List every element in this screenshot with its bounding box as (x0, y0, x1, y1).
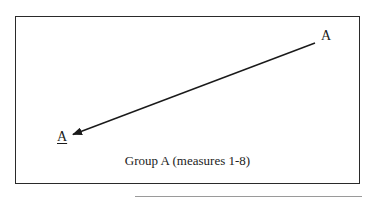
arrow-icon (0, 0, 374, 199)
diagram-caption: Group A (measures 1-8) (15, 153, 360, 169)
start-label: A (321, 29, 331, 43)
page-rule-divider (135, 196, 362, 197)
end-label-underlined: A (57, 130, 67, 144)
